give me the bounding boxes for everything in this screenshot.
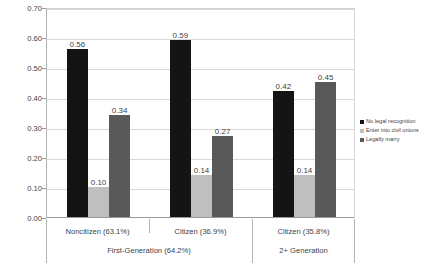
legend-label: No legal recognition [366, 119, 415, 125]
legend-swatch-icon [360, 120, 364, 124]
y-tick-label: 0.70 [2, 4, 42, 13]
bar-chart: Proportion 0.000.100.200.300.400.500.600… [0, 0, 434, 268]
y-tick-label: 0.50 [2, 64, 42, 73]
bar-value-label: 0.45 [318, 73, 334, 82]
bar-value-label: 0.27 [215, 127, 231, 136]
legend-label: Legally marry [366, 137, 400, 143]
category-axis: Noncitizen (63.1%)Citizen (36.9%)Citizen… [46, 219, 355, 263]
bar [109, 115, 130, 217]
legend: No legal recognitionEnter into civil uni… [360, 119, 434, 146]
bar [67, 49, 88, 217]
category-label: Citizen (35.8%) [278, 227, 330, 236]
bar-value-label: 0.56 [70, 40, 86, 49]
axis-separator [354, 219, 355, 263]
category-label: Noncitizen (63.1%) [65, 227, 129, 236]
y-tick-label: 0.30 [2, 124, 42, 133]
plot-area: 0.560.100.340.590.140.270.420.140.45 [46, 8, 355, 218]
legend-item: Legally marry [360, 137, 434, 143]
bar-value-label: 0.10 [91, 178, 107, 187]
bar-value-label: 0.14 [194, 166, 210, 175]
bar [170, 40, 191, 217]
bar [88, 187, 109, 217]
legend-item: No legal recognition [360, 119, 434, 125]
y-tick-label: 0.10 [2, 184, 42, 193]
bar-value-label: 0.14 [297, 166, 313, 175]
bar-value-label: 0.34 [112, 106, 128, 115]
legend-item: Enter into civil unions [360, 128, 434, 134]
bar [294, 175, 315, 217]
legend-swatch-icon [360, 138, 364, 142]
bar-value-label: 0.59 [173, 31, 189, 40]
legend-swatch-icon [360, 129, 364, 133]
y-tick-label: 0.20 [2, 154, 42, 163]
axis-separator [149, 219, 150, 233]
axis-separator [252, 219, 253, 263]
bars-layer: 0.560.100.340.590.140.270.420.140.45 [47, 9, 354, 217]
group-label: First-Generation (64.2%) [107, 246, 191, 255]
bar [315, 82, 336, 217]
bar [273, 91, 294, 217]
category-label: Citizen (36.9%) [175, 227, 227, 236]
y-tick-label: 0.40 [2, 94, 42, 103]
bar [212, 136, 233, 217]
y-tick-label: 0.00 [2, 214, 42, 223]
bar [191, 175, 212, 217]
group-label: 2+ Generation [279, 246, 327, 255]
y-tick-label: 0.60 [2, 34, 42, 43]
legend-label: Enter into civil unions [366, 128, 419, 134]
axis-separator [46, 219, 47, 263]
bar-value-label: 0.42 [276, 82, 292, 91]
